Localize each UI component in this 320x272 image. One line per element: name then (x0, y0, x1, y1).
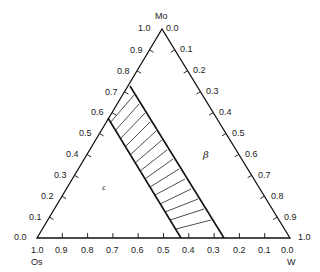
svg-text:0.3: 0.3 (207, 245, 220, 255)
epsilon-phase-label: ε (102, 184, 106, 192)
bottom-axis-ticks (62, 233, 264, 238)
svg-text:0.5: 0.5 (157, 245, 170, 255)
svg-text:0.7: 0.7 (106, 245, 119, 255)
two-phase-region (108, 86, 224, 238)
vertex-w-right-value: 1.0 (298, 232, 311, 242)
svg-text:0.7: 0.7 (258, 170, 271, 180)
svg-text:0.4: 0.4 (219, 107, 232, 117)
vertex-mo-left-value: 1.0 (138, 23, 151, 33)
svg-text:0.9: 0.9 (130, 45, 143, 55)
svg-text:0.2: 0.2 (41, 191, 54, 201)
svg-text:0.7: 0.7 (105, 87, 118, 97)
svg-text:0.1: 0.1 (180, 44, 193, 54)
beta-phase-label: β (202, 149, 209, 160)
vertex-os-label: Os (31, 257, 43, 267)
svg-text:0.5: 0.5 (232, 128, 245, 138)
svg-text:0.1: 0.1 (258, 245, 271, 255)
beta-boundary (130, 86, 224, 238)
bottom-axis-labels: 0.9 0.8 0.7 0.6 0.5 0.4 0.3 0.2 0.1 (55, 245, 271, 255)
svg-text:0.8: 0.8 (117, 66, 130, 76)
svg-text:0.8: 0.8 (271, 191, 284, 201)
svg-text:0.6: 0.6 (245, 149, 258, 159)
svg-text:0.9: 0.9 (55, 245, 68, 255)
svg-text:0.6: 0.6 (131, 245, 144, 255)
svg-text:0.8: 0.8 (81, 245, 94, 255)
right-axis-ticks (171, 50, 277, 220)
ternary-diagram: Mo 1.0 0.0 0.0 1.0 Os 0.0 1.0 W 0.1 0.2 … (0, 0, 320, 272)
vertex-os-bottom-value: 1.0 (31, 245, 44, 255)
svg-text:0.4: 0.4 (182, 245, 195, 255)
left-axis-ticks (50, 50, 154, 220)
svg-text:0.6: 0.6 (91, 107, 104, 117)
svg-text:0.1: 0.1 (29, 212, 42, 222)
svg-text:0.2: 0.2 (233, 245, 246, 255)
svg-text:0.4: 0.4 (66, 149, 79, 159)
vertex-w-bottom-value: 0.0 (281, 245, 294, 255)
svg-text:0.3: 0.3 (54, 170, 67, 180)
svg-text:0.3: 0.3 (206, 86, 219, 96)
svg-text:0.9: 0.9 (284, 212, 297, 222)
epsilon-boundary (108, 118, 181, 238)
svg-text:0.2: 0.2 (193, 65, 206, 75)
vertex-mo-label: Mo (155, 11, 168, 21)
vertex-mo-right-value: 0.0 (166, 23, 179, 33)
triangle-frame (37, 29, 290, 238)
vertex-w-label: W (287, 257, 296, 267)
svg-text:0.5: 0.5 (79, 128, 92, 138)
vertex-os-left-value: 0.0 (14, 232, 27, 242)
